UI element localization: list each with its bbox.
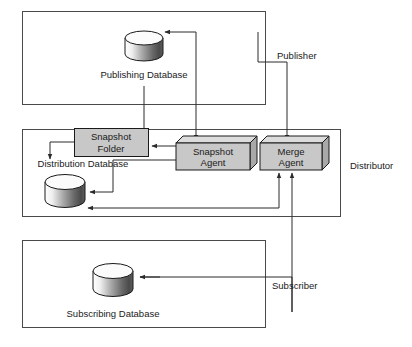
connector-publisher-to-snapshot-agent [165,32,196,140]
publisher-zone-label: Publisher [277,50,317,61]
distribution-database-label: Distribution Database [38,158,129,169]
merge-agent-top-face [260,136,329,143]
distribution-database: Distribution Database [38,158,129,208]
connector-merge-agent-to-subscriber-db [140,277,292,312]
publishing-database: Publishing Database [100,31,187,80]
snapshot-agent-top-face [176,136,257,143]
snapshot-folder-label-line1: Snapshot [91,131,132,142]
distributor-zone-label: Distributor [350,160,393,171]
subscribing-database-cylinder-top [93,264,133,279]
connector-merge-agent-to-distribution-db [88,173,279,208]
snapshot-folder-label-line2: Folder [98,143,125,154]
distribution-database-cylinder-top [45,175,85,190]
snapshot-agent-label-line2: Agent [201,157,226,168]
publishing-database-label: Publishing Database [100,69,187,80]
publishing-database-cylinder-top [125,31,163,45]
replication-topology-diagram: Publishing Database Distribution Databas… [0,0,412,347]
merge-agent-label-line1: Merge [278,146,305,157]
snapshot-agent-label-line1: Snapshot [193,146,234,157]
connector-publisher-to-merge-agent [258,62,287,140]
subscribing-database-label: Subscribing Database [67,308,160,319]
merge-agent-label-line2: Agent [279,157,304,168]
subscribing-database: Subscribing Database [67,264,160,320]
snapshot-agent-box: Snapshot Agent [176,136,257,170]
connector-folder-to-distribution-db [50,142,74,159]
diagram-canvas: Publishing Database Distribution Databas… [0,0,412,347]
snapshot-folder-box: Snapshot Folder [75,129,149,157]
merge-agent-box: Merge Agent [260,136,329,170]
subscriber-zone-label: Subscriber [272,280,317,291]
